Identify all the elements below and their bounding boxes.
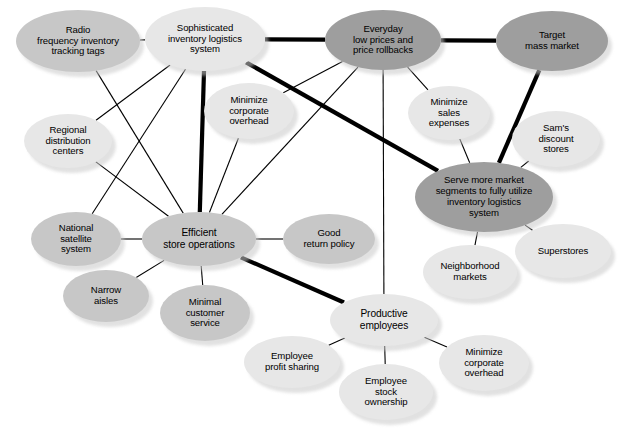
node-minimal[interactable]: Minimalcustomerservice (160, 285, 250, 341)
node-label-national: Nationalsatellitesystem (55, 223, 97, 256)
node-sophisticated[interactable]: Sophisticatedinventory logisticssystem (145, 7, 265, 71)
edge-sophisticated-to-efficient (200, 71, 204, 212)
node-stock[interactable]: Employeestockownership (339, 364, 433, 420)
node-label-everyday: Everydaylow prices andprice rollbacks (349, 24, 417, 57)
node-mco_bot[interactable]: Minimizecorporateoverhead (439, 335, 529, 391)
node-narrow[interactable]: Narrowaisles (63, 270, 149, 322)
node-label-productive: Productiveemployees (356, 308, 412, 331)
node-label-sophisticated: Sophisticatedinventory logisticssystem (164, 23, 246, 56)
node-label-serve: Serve more marketsegments to fully utili… (432, 175, 537, 219)
node-label-goodreturn: Goodreturn policy (300, 228, 359, 250)
node-msales[interactable]: Minimizesalesexpenses (408, 86, 490, 140)
node-label-radio: Radiofrequency inventorytracking tags (33, 25, 123, 58)
node-label-mco_bot: Minimizecorporateoverhead (460, 347, 508, 380)
node-label-minimal: Minimalcustomerservice (182, 297, 229, 330)
node-label-mco_top: Minimizecorporateoverhead (225, 95, 273, 128)
node-label-regional: Regionaldistributioncenters (41, 125, 94, 158)
node-label-neighborhood: Neighborhoodmarkets (436, 261, 503, 283)
edge-everyday-to-productive (383, 70, 384, 294)
diagram-canvas: Radiofrequency inventorytracking tagsSop… (0, 0, 625, 434)
node-profit[interactable]: Employeeprofit sharing (244, 336, 340, 388)
node-serve[interactable]: Serve more marketsegments to fully utili… (415, 162, 553, 232)
node-label-efficient: Efficientstore operations (159, 227, 238, 250)
node-everyday[interactable]: Everydaylow prices andprice rollbacks (325, 10, 441, 70)
node-target[interactable]: Targetmass market (496, 11, 608, 71)
node-label-stock: Employeestockownership (361, 376, 412, 409)
node-mco_top[interactable]: Minimizecorporateoverhead (204, 83, 294, 139)
node-goodreturn[interactable]: Goodreturn policy (283, 214, 375, 264)
node-regional[interactable]: Regionaldistributioncenters (24, 114, 112, 168)
edge-regional-to-efficient (96, 162, 169, 216)
node-label-target: Targetmass market (521, 30, 583, 52)
node-national[interactable]: Nationalsatellitesystem (31, 212, 121, 266)
node-label-msales: Minimizesalesexpenses (425, 97, 473, 130)
node-neighborhood[interactable]: Neighborhoodmarkets (423, 245, 517, 299)
node-label-sams: Sam'sdiscountstores (535, 123, 578, 156)
node-superstores[interactable]: Superstores (515, 224, 611, 278)
node-efficient[interactable]: Efficientstore operations (142, 212, 256, 266)
node-label-profit: Employeeprofit sharing (261, 351, 323, 373)
node-label-narrow: Narrowaisles (87, 285, 125, 307)
node-radio[interactable]: Radiofrequency inventorytracking tags (16, 10, 140, 72)
node-label-superstores: Superstores (534, 246, 593, 257)
edge-efficient-to-narrow (136, 260, 164, 277)
edge-everyday-to-mco_top (283, 62, 342, 93)
node-sams[interactable]: Sam'sdiscountstores (512, 111, 600, 167)
node-productive[interactable]: Productiveemployees (330, 294, 438, 346)
